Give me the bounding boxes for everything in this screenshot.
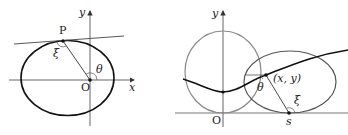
left-diagram: P ξ θ O x y [9,6,136,126]
origin-label: O [212,114,221,127]
ellipse [21,41,114,116]
x-axis-label: x [129,81,136,94]
theta-label: θ [257,81,264,94]
curve-min-point [221,90,224,93]
origin-label: O [81,81,90,94]
y-axis-label: y [211,7,219,20]
right-diagram: (x, y) θ ξ s O y [175,7,348,128]
point-p-label: P [59,24,67,37]
tangent-line [14,36,124,44]
point-p [61,39,65,43]
point-xy-label: (x, y) [273,72,301,85]
s-label: s [286,115,292,128]
radius-line [63,41,90,80]
theta-label: θ [96,63,103,76]
y-axis-label: y [78,6,86,19]
xi-label: ξ [294,94,301,107]
xi-label: ξ [53,47,60,60]
figure: P ξ θ O x y (x, y) θ ξ s O y [0,0,348,135]
point-xy [264,73,268,77]
